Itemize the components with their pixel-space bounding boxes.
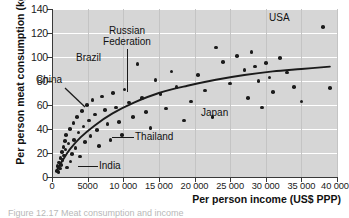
x-axis-tick-label: 35 000 — [287, 181, 315, 191]
y-axis-tick-label: 60 — [37, 99, 48, 111]
leader-line-thailand — [112, 137, 134, 138]
x-axis-tick-label: 40 000 — [321, 181, 349, 191]
y-axis-tick-label: 120 — [31, 27, 48, 39]
y-axis-title: Per person meat consumption (kg) — [14, 0, 26, 168]
y-axis-tick-label: 100 — [31, 51, 48, 63]
leader-line-china — [52, 9, 337, 177]
x-axis-tick-label: 5000 — [77, 181, 97, 191]
x-axis-tick-label: 15 000 — [145, 181, 173, 191]
y-axis-tick-label: 80 — [37, 75, 48, 87]
y-axis-line — [52, 9, 53, 178]
plot-area: USA Japan Russian Federation Brazil Chin… — [52, 9, 337, 177]
x-axis-tick-label: 30 000 — [252, 181, 280, 191]
x-axis-tick-label: 25 000 — [216, 181, 244, 191]
y-axis-tick-label: 20 — [37, 147, 48, 159]
gridline-vertical — [337, 9, 338, 177]
y-axis-tick-label: 140 — [31, 3, 48, 15]
x-axis-tick-label: 10 000 — [109, 181, 137, 191]
leader-line-india — [78, 166, 98, 167]
y-axis-tick-label: 0 — [42, 171, 48, 183]
annotation-india: India — [99, 161, 121, 172]
annotation-thailand: Thailand — [135, 132, 173, 143]
x-axis-title: Per person income (US$ PPP) — [0, 193, 341, 205]
figure-container: USA Japan Russian Federation Brazil Chin… — [0, 0, 349, 218]
y-axis-tick-label: 40 — [37, 123, 48, 135]
figure-caption: Figure 12.17 Meat consumption and income — [8, 208, 184, 218]
x-axis-tick-label: 20 000 — [181, 181, 209, 191]
x-axis-tick-label: 0 — [49, 181, 54, 191]
